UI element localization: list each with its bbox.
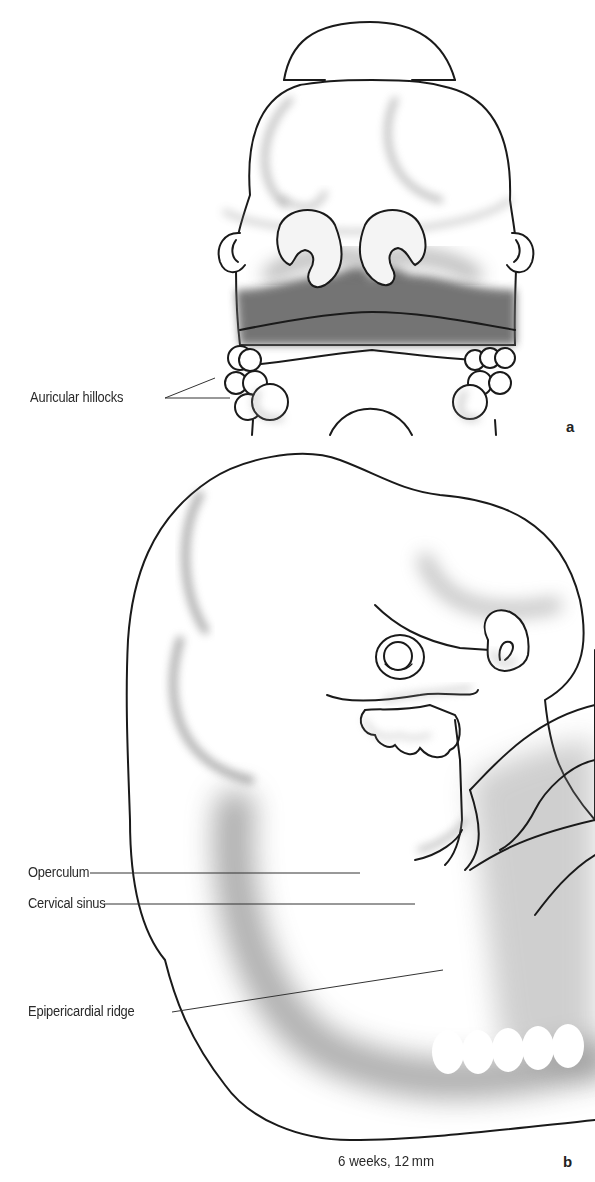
label-cervical-sinus: Cervical sinus (28, 895, 106, 911)
panel-a-frontal-view (219, 22, 534, 435)
panel-b-lateral-view (127, 454, 595, 1140)
panel-letter-b: b (563, 1153, 572, 1170)
label-operculum: Operculum (28, 864, 89, 880)
label-epipericardial-ridge: Epipericardial ridge (28, 1003, 135, 1019)
label-auricular-hillocks: Auricular hillocks (30, 389, 123, 405)
panel-letter-a: a (566, 418, 574, 435)
figure-caption-age-size: 6 weeks, 12 mm (338, 1153, 434, 1169)
